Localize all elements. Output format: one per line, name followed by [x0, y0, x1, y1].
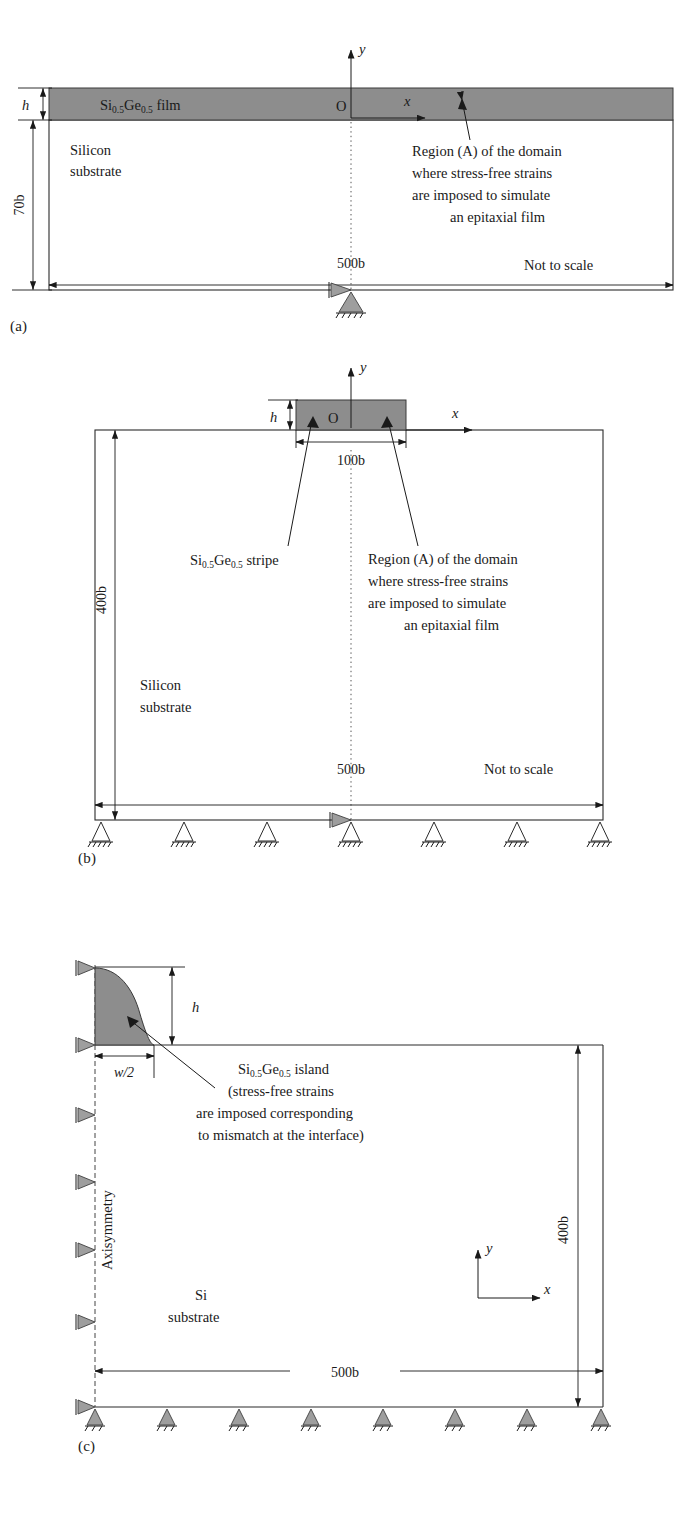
callout-c-line3: to mismatch at the interface)	[198, 1127, 364, 1144]
h-label-a: h	[22, 97, 29, 113]
leader-island-c	[130, 1020, 215, 1088]
panel-b: h y x O 100b Si0.5Ge0.5 stripe Region (A…	[0, 350, 698, 910]
panel-a-drawing: h 70b y x O Si0.5Ge0.5 film Silicon subs…	[0, 0, 698, 350]
inset-y-label-c: y	[484, 1240, 493, 1256]
inset-x-label-c: x	[543, 1281, 551, 1297]
bottom-support-c-2	[157, 1409, 177, 1431]
panel-c: h w/2 Si0.5Ge0.5 island (stress-free str…	[0, 910, 698, 1525]
support-b-6	[504, 822, 529, 847]
callout-b-line2: where stress-free strains	[368, 573, 508, 589]
support-b-3	[254, 822, 279, 847]
left-support-c-7	[76, 1399, 95, 1415]
roller-support-horizontal-b	[332, 813, 351, 827]
depth-label-70b: 70b	[12, 195, 27, 216]
bottom-support-c-1	[85, 1409, 105, 1431]
left-support-c-3	[76, 1107, 95, 1123]
leader-region-a-b	[388, 420, 418, 546]
left-support-c-4	[76, 1174, 95, 1190]
bottom-support-c-4	[301, 1409, 321, 1431]
substrate-label-a-line1: Silicon	[70, 142, 112, 158]
sige-stripe-label: Si0.5Ge0.5 stripe	[190, 552, 279, 570]
left-support-group-c	[76, 960, 95, 1415]
panel-label-b: (b)	[78, 850, 96, 867]
bottom-support-c-3	[229, 1409, 249, 1431]
support-b-5	[421, 822, 446, 847]
panel-b-drawing: h y x O 100b Si0.5Ge0.5 stripe Region (A…	[0, 350, 698, 910]
substrate-label-b-line1: Silicon	[140, 677, 182, 693]
sige-island-label: Si0.5Ge0.5 island	[238, 1061, 330, 1079]
substrate-label-c-line1: Si	[195, 1287, 207, 1303]
callout-a-line3: are imposed to simulate	[412, 187, 550, 203]
left-support-c-6	[76, 1314, 95, 1330]
left-support-c-1	[76, 960, 95, 976]
callout-a-line2: where stress-free strains	[412, 165, 552, 181]
y-axis-label-b: y	[358, 359, 367, 375]
callout-b-line3: are imposed to simulate	[368, 595, 506, 611]
support-b-4	[338, 822, 363, 847]
panel-a: h 70b y x O Si0.5Ge0.5 film Silicon subs…	[0, 0, 698, 350]
callout-a-line4: an epitaxial film	[450, 209, 546, 225]
axes-inset-c: y x	[478, 1240, 551, 1298]
y-axis-label-a: y	[357, 41, 366, 57]
callout-b-line4: an epitaxial film	[404, 617, 500, 633]
width-label-500b-c: 500b	[331, 1365, 359, 1380]
not-to-scale-b: Not to scale	[484, 761, 553, 777]
not-to-scale-a: Not to scale	[524, 257, 593, 273]
bottom-support-c-5	[373, 1409, 393, 1431]
depth-label-400b-c: 400b	[556, 1216, 571, 1244]
x-axis-label-b: x	[451, 405, 459, 421]
left-support-c-2	[76, 1037, 95, 1053]
origin-label-a: O	[336, 98, 346, 114]
x-axis-label-a: x	[403, 93, 411, 109]
sige-film-band	[49, 88, 673, 120]
h-label-b: h	[270, 409, 277, 425]
bottom-support-group-c	[85, 1409, 611, 1431]
width-label-500b-a: 500b	[337, 256, 365, 271]
panel-label-c: (c)	[78, 1438, 95, 1455]
bottom-support-c-6	[445, 1409, 465, 1431]
depth-label-400b-b: 400b	[94, 586, 109, 614]
h-label-c: h	[192, 999, 199, 1015]
sige-island	[95, 968, 154, 1045]
bottom-support-c-7	[517, 1409, 537, 1431]
callout-c-line2: are imposed corresponding	[196, 1105, 353, 1121]
callout-a-line1: Region (A) of the domain	[412, 143, 563, 160]
support-b-1	[88, 822, 113, 847]
left-support-c-5	[76, 1242, 95, 1258]
bottom-support-c-8	[591, 1409, 611, 1431]
panel-label-a: (a)	[10, 318, 27, 335]
callout-b-line1: Region (A) of the domain	[368, 551, 519, 568]
leader-stripe	[288, 420, 312, 546]
support-group-b	[88, 822, 612, 847]
panel-c-drawing: h w/2 Si0.5Ge0.5 island (stress-free str…	[0, 910, 698, 1525]
width-label-500b-b: 500b	[337, 762, 365, 777]
substrate-label-a-line2: substrate	[70, 163, 122, 179]
halfwidth-label-c: w/2	[114, 1065, 134, 1080]
pin-support-a	[339, 292, 363, 312]
origin-label-b: O	[328, 410, 338, 426]
axisymmetry-label-c: Axisymmetry	[99, 1189, 115, 1269]
support-b-2	[171, 822, 196, 847]
callout-c-line1: (stress-free strains	[228, 1083, 334, 1100]
substrate-label-b-line2: substrate	[140, 699, 192, 715]
support-b-7	[587, 822, 612, 847]
substrate-label-c-line2: substrate	[168, 1309, 220, 1325]
pin-support-hatch-a	[336, 313, 363, 318]
